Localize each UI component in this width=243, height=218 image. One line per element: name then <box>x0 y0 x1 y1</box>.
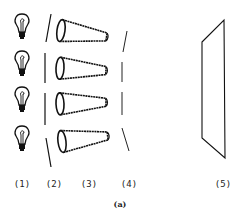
bulb-icon <box>15 14 29 39</box>
bulb-icon <box>15 87 29 112</box>
bulb-group <box>15 14 29 151</box>
label-5: (5) <box>215 179 231 189</box>
slit-line <box>122 128 129 151</box>
cone-icon <box>56 91 108 115</box>
cone-icon <box>55 57 108 82</box>
label-2: (2) <box>46 179 62 189</box>
bulb-icon <box>15 51 29 76</box>
figure-caption: (a) <box>114 199 127 209</box>
slit-line <box>123 31 127 52</box>
slit-line <box>46 14 51 42</box>
cone-group <box>55 19 110 153</box>
label-1: (1) <box>14 179 30 189</box>
slit-line <box>46 138 51 167</box>
cone-icon <box>55 19 109 48</box>
bulb-icon <box>15 126 29 151</box>
label-3: (3) <box>81 179 97 189</box>
optical-setup-diagram: (1) (2) (3) (4) (5) (a) <box>0 0 243 218</box>
slit-group-4 <box>122 31 129 151</box>
cone-icon <box>57 125 111 153</box>
slit-group-2 <box>45 14 51 167</box>
screen-panel <box>202 20 225 158</box>
label-4: (4) <box>121 179 137 189</box>
